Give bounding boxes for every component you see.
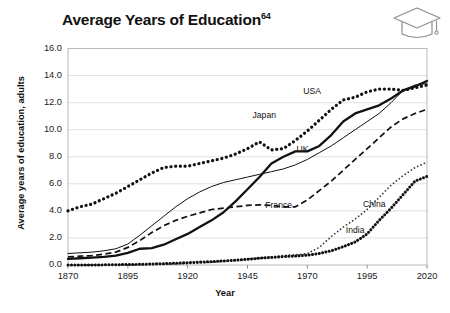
x-tick-label: 1870 (43, 271, 93, 281)
series-label-china: China (363, 199, 385, 209)
series-label-uk: UK (297, 144, 309, 154)
series-layer (68, 81, 427, 265)
chart-svg (0, 0, 450, 313)
y-tick-label: 8.0 (28, 151, 62, 161)
series-label-france: France (265, 200, 292, 210)
x-tick-label: 1945 (223, 271, 273, 281)
y-tick-label: 2.0 (28, 232, 62, 242)
y-tick-label: 6.0 (28, 178, 62, 188)
y-tick-label: 12.0 (28, 97, 62, 107)
y-tick-label: 4.0 (28, 205, 62, 215)
series-line-japan (68, 81, 427, 259)
series-line-france (68, 109, 427, 256)
series-line-china (68, 162, 427, 265)
series-label-usa: USA (303, 86, 321, 96)
chart-card: Average Years of Education64 Average yea… (0, 0, 450, 313)
series-label-japan: Japan (253, 110, 276, 120)
x-tick-label: 1995 (342, 271, 392, 281)
y-tick-label: 10.0 (28, 124, 62, 134)
x-tick-label: 1920 (163, 271, 213, 281)
x-tick-label: 1970 (282, 271, 332, 281)
y-tick-label: 16.0 (28, 43, 62, 53)
series-label-india: India (346, 225, 365, 235)
plot-area: Average years of education, adults Year … (0, 0, 450, 313)
y-tick-label: 0.0 (28, 259, 62, 269)
x-axis-title: Year (0, 288, 450, 298)
x-tick-label: 1895 (103, 271, 153, 281)
series-line-usa (68, 85, 427, 211)
x-tick-label: 2020 (402, 271, 450, 281)
y-tick-label: 14.0 (28, 70, 62, 80)
y-axis-title: Average years of education, adults (16, 63, 26, 243)
